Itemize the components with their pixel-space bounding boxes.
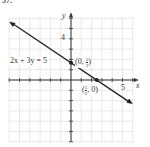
- plotted-point: [69, 61, 73, 65]
- y-tick-label-4: 4: [61, 34, 65, 42]
- point-label-x-intercept: (52, 0): [82, 85, 98, 96]
- x-tick-label-5: 5: [121, 84, 125, 92]
- point-label-y-intercept: (0, 53): [75, 57, 91, 68]
- point-label-open: (0,: [75, 57, 86, 66]
- x-axis-label: x: [136, 82, 140, 90]
- plotted-point: [95, 78, 99, 82]
- y-axis-label: y: [62, 12, 66, 20]
- coordinate-plane: [0, 0, 150, 147]
- y-axis-arrowhead: [69, 12, 73, 17]
- equation-label: 2x + 3y = 5: [9, 57, 48, 65]
- problem-number: 57.: [2, 0, 12, 5]
